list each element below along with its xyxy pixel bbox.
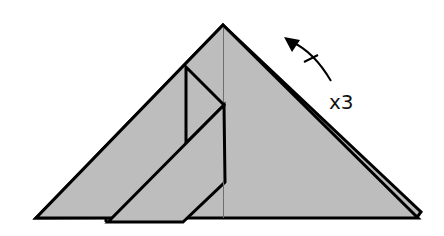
repeat-count-label: x3 xyxy=(329,92,354,112)
rotate-arrow-icon xyxy=(284,37,331,81)
main-triangle xyxy=(36,25,418,218)
origami-diagram xyxy=(0,0,444,236)
